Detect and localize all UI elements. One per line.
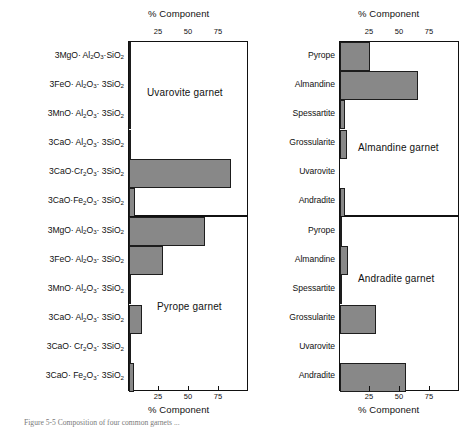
right-lower-category-label-5: Andradite [299, 370, 335, 380]
right-axis-title-top: % Component [358, 8, 419, 19]
tick-mark-25 [158, 386, 159, 391]
right-lower-category-label-4: Uvarovite [299, 341, 335, 351]
right-tick-marks-bottom [339, 386, 459, 391]
almandine-bar-1 [340, 71, 418, 100]
right-axis-title-bottom: % Component [358, 404, 419, 415]
left-axis-title-top: % Component [148, 8, 209, 19]
figure-garnet-composition: % Component 255075 Uvarovite garnet Pyro… [0, 0, 467, 434]
right-upper-category-label-1: Almandine [295, 79, 335, 89]
pyrope-bar-1 [129, 246, 163, 275]
andradite-bar-3 [340, 305, 376, 334]
right-upper-category-label-3: Grossularite [289, 137, 335, 147]
pyrope-bar-2 [129, 275, 131, 304]
left-lower-category-label-1: 3FeO· Al2O3· 3SiO2 [50, 254, 124, 264]
panel-label-andradite: Andradite garnet [358, 273, 434, 284]
right-upper-category-label-2: Spessartite [293, 108, 335, 118]
tick-label-25: 25 [365, 392, 373, 401]
andradite-bar-2 [340, 275, 342, 304]
plot-almandine-garnet: Almandine garnet [339, 41, 459, 216]
andradite-bar-1 [340, 246, 348, 275]
plot-andradite-garnet: Andradite garnet [339, 216, 459, 391]
tick-mark-50 [399, 386, 400, 391]
left-upper-category-label-0: 3MgO· Al2O3·SiO2 [55, 50, 124, 60]
tick-label-75: 75 [425, 392, 433, 401]
left-tick-marks-bottom [128, 386, 248, 391]
tick-label-75: 75 [214, 27, 222, 36]
right-tick-labels-top: 255075 [339, 27, 459, 38]
tick-mark-75 [429, 386, 430, 391]
plot-uvarovite-garnet: Uvarovite garnet [128, 41, 248, 216]
tick-label-50: 50 [184, 392, 192, 401]
almandine-bar-5 [340, 188, 345, 217]
tick-label-75: 75 [425, 27, 433, 36]
right-lower-category-label-0: Pyrope [308, 225, 335, 235]
left-lower-category-label-3: 3CaO· Al2O3· 3SiO2 [49, 312, 124, 322]
almandine-bar-3 [340, 130, 347, 159]
tick-label-50: 50 [395, 392, 403, 401]
left-lower-category-label-5: 3CaO· Fe2O3· 3SiO2 [46, 370, 124, 380]
tick-mark-75 [218, 386, 219, 391]
left-upper-category-label-5: 3CaO·Fe2O3· 3SiO2 [48, 195, 124, 205]
right-upper-category-label-5: Andradite [299, 195, 335, 205]
panel-label-uvarovite: Uvarovite garnet [147, 87, 223, 98]
tick-label-25: 25 [154, 392, 162, 401]
figure-caption: Figure 5-5 Composition of four common ga… [24, 418, 454, 433]
uvarovite-bar-4 [129, 159, 231, 188]
left-upper-category-label-1: 3FeO· Al2O3· 3SiO2 [50, 79, 124, 89]
right-tick-labels-bottom: 255075 [339, 392, 459, 403]
panel-label-pyrope: Pyrope garnet [157, 301, 222, 312]
tick-label-25: 25 [154, 27, 162, 36]
left-upper-category-label-3: 3CaO· Al2O3· 3SiO2 [49, 137, 124, 147]
uvarovite-bar-0 [129, 42, 131, 71]
pyrope-bar-4 [129, 334, 131, 363]
uvarovite-bar-3 [129, 130, 131, 159]
tick-label-50: 50 [184, 27, 192, 36]
pyrope-bar-3 [129, 305, 142, 334]
right-lower-category-label-2: Spessartite [293, 283, 335, 293]
left-axis-title-bottom: % Component [148, 404, 209, 415]
pyrope-bar-0 [129, 217, 205, 246]
uvarovite-bar-2 [129, 100, 131, 129]
tick-label-50: 50 [395, 27, 403, 36]
left-lower-category-label-0: 3MgO· Al2O3· 3SiO2 [48, 225, 124, 235]
tick-mark-25 [369, 386, 370, 391]
left-upper-category-label-2: 3MnO· Al2O3· 3SiO2 [48, 108, 124, 118]
left-lower-category-label-4: 3CaO· Cr2O3· 3SiO2 [47, 341, 124, 351]
left-tick-labels-bottom: 255075 [128, 392, 248, 403]
right-lower-category-label-1: Almandine [295, 254, 335, 264]
right-upper-category-label-0: Pyrope [308, 50, 335, 60]
uvarovite-bar-5 [129, 188, 135, 217]
left-tick-labels-top: 255075 [128, 27, 248, 38]
right-lower-category-label-3: Grossularite [289, 312, 335, 322]
andradite-bar-0 [340, 217, 342, 246]
plot-pyrope-garnet: Pyrope garnet [128, 216, 248, 391]
left-lower-category-label-2: 3MnO· Al2O3· 3SiO2 [48, 283, 124, 293]
left-upper-category-label-4: 3CaO·Cr2O3· 3SiO2 [49, 166, 124, 176]
almandine-bar-2 [340, 100, 345, 129]
right-upper-category-label-4: Uvarovite [299, 166, 335, 176]
almandine-bar-0 [340, 42, 370, 71]
tick-mark-50 [188, 386, 189, 391]
panel-label-almandine: Almandine garnet [358, 142, 439, 153]
tick-label-25: 25 [365, 27, 373, 36]
tick-label-75: 75 [214, 392, 222, 401]
uvarovite-bar-1 [129, 71, 131, 100]
